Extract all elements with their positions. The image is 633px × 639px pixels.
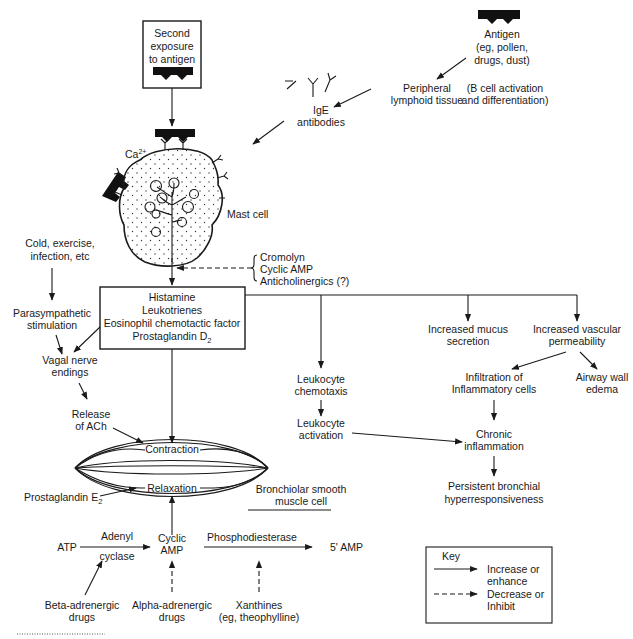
mediator-eosinophil-factor: Eosinophil chemotactic factor <box>104 317 241 329</box>
arrow-vascular-to-edema <box>580 352 597 369</box>
key-decrease-label: Decrease or <box>487 588 545 600</box>
activation-label: activation <box>299 429 344 441</box>
key-increase-label: Increase or <box>487 563 540 575</box>
vagal-label: Vagal nerve <box>42 354 97 366</box>
mast-cell-illustration <box>102 129 228 266</box>
chemotaxis-label: chemotaxis <box>294 385 347 397</box>
arrow-vagal-to-ach <box>79 383 87 399</box>
key-enhance-label: enhance <box>487 575 527 587</box>
brace-icon <box>251 255 257 281</box>
peripheral-label-1: Peripheral <box>403 82 451 94</box>
inflammation-label: inflammation <box>464 440 524 452</box>
cyclic-label: Cyclic <box>158 532 186 544</box>
persistent-label: Persistent bronchial <box>448 480 540 492</box>
chronic-label: Chronic <box>476 428 512 440</box>
cyclase-label: cyclase <box>99 550 134 562</box>
beta-label: Beta-adrenergic <box>45 599 120 611</box>
smooth-muscle-label: Bronchiolar smooth <box>256 483 347 495</box>
inhibitor-cromolyn: Cromolyn <box>260 251 305 263</box>
parasympathetic-label: Parasympathetic <box>13 307 91 319</box>
cold-exercise-label: Cold, exercise, <box>25 237 94 249</box>
infection-label: infection, etc <box>31 250 90 262</box>
release-label: Release <box>72 408 111 420</box>
inhibitor-cyclic-amp: Cyclic AMP <box>260 263 313 275</box>
beta-drugs-label: drugs <box>69 611 95 623</box>
antigen-shape-icon <box>478 10 520 24</box>
leukocyte-chemotaxis-label: Leukocyte <box>297 373 345 385</box>
prostaglandin-e2-label: Prostaglandin E2 <box>24 491 102 506</box>
ige-antibodies-icon <box>285 73 336 97</box>
mucus-label: Increased mucus <box>428 323 508 335</box>
arrow-mediators-to-vagal <box>74 327 100 352</box>
asthma-pathophysiology-diagram: Second exposure to antigen Antigen (eg, … <box>0 0 633 639</box>
mediator-histamine: Histamine <box>149 291 196 303</box>
atp-label: ATP <box>57 541 77 553</box>
xanthines-label: Xanthines <box>236 599 283 611</box>
muscle-cell-label: muscle cell <box>275 495 327 507</box>
adenyl-label: Adenyl <box>101 530 133 542</box>
phosphodiesterase-label: Phosphodiesterase <box>207 531 297 543</box>
relaxation-label: Relaxation <box>147 482 197 494</box>
arrow-ach-to-contraction <box>113 428 143 443</box>
mediators-box: Histamine Leukotrienes Eosinophil chemot… <box>100 287 245 349</box>
key-title: Key <box>442 550 461 562</box>
secretion-label: secretion <box>447 335 490 347</box>
second-exposure-line-1: Second <box>154 27 190 39</box>
arrow-beta-to-cyclase <box>85 561 102 595</box>
second-exposure-line-2: exposure <box>150 40 193 52</box>
ige-label-2: antibodies <box>297 116 345 128</box>
arrow-parasympathetic-to-vagal <box>56 335 62 354</box>
peripheral-label-2: lymphoid tissue <box>391 94 464 106</box>
key-inhibit-label: Inhibit <box>487 600 515 612</box>
endings-label: endings <box>52 366 89 378</box>
five-amp-label: 5' AMP <box>330 541 363 553</box>
ach-label: of ACh <box>75 420 107 432</box>
mast-cell-label: Mast cell <box>227 208 268 220</box>
alpha-drugs-label: drugs <box>159 611 185 623</box>
antigen-node: Antigen (eg, pollen, drugs, dust) <box>474 10 529 66</box>
arrow-ige-to-mast <box>253 121 284 144</box>
inhibitor-anticholinergics: Anticholinergics (?) <box>260 275 349 287</box>
second-exposure-line-3: to antigen <box>149 53 195 65</box>
ige-label: IgE <box>313 104 329 116</box>
arrow-antigen-to-lymphoid <box>437 58 466 79</box>
arrow-lymphoid-to-ige <box>334 89 371 107</box>
arrow-vascular-to-infiltration <box>512 352 566 369</box>
stimulation-label: stimulation <box>27 319 77 331</box>
arrow-pge2-to-relaxation <box>100 488 136 496</box>
permeability-label: permeability <box>549 335 606 347</box>
infiltration-label: Infiltration of <box>465 371 522 383</box>
edema-label: edema <box>586 383 618 395</box>
inflammatory-cells-label: Inflammatory cells <box>452 383 537 395</box>
mediator-leukotrienes: Leukotrienes <box>142 304 202 316</box>
arrow-activation-to-chronic <box>352 433 462 442</box>
contraction-label: Contraction <box>145 443 199 455</box>
vascular-label: Increased vascular <box>533 323 622 335</box>
alpha-label: Alpha-adrenergic <box>132 599 212 611</box>
amp-label: AMP <box>161 544 184 556</box>
leukocyte-activation-label: Leukocyte <box>297 417 345 429</box>
b-cell-note-1: (B cell activation <box>467 82 544 94</box>
hyperresponsiveness-label: hyperresponsiveness <box>444 493 543 505</box>
antigen-examples-1: (eg, pollen, <box>476 41 528 53</box>
antigen-label: Antigen <box>484 28 520 40</box>
b-cell-note-2: and differentiation) <box>462 94 549 106</box>
antigen-examples-2: drugs, dust) <box>474 54 529 66</box>
airway-wall-label: Airway wall <box>576 371 629 383</box>
legend-key-box: Key Increase or enhance Decrease or Inhi… <box>426 547 552 623</box>
theophylline-label: (eg, theophylline) <box>219 611 300 623</box>
second-exposure-box: Second exposure to antigen <box>143 21 201 88</box>
